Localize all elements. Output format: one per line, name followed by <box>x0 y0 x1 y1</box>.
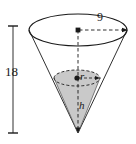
cone-diagram-svg <box>0 0 136 144</box>
outer-radius-label: 9 <box>97 11 103 23</box>
inner-cone-center-dot <box>74 75 79 80</box>
cone-figure: 18 9 r h <box>0 0 136 144</box>
inner-radius-label: r <box>80 71 84 82</box>
outer-height-label: 18 <box>5 65 18 78</box>
inner-height-label: h <box>79 100 85 111</box>
